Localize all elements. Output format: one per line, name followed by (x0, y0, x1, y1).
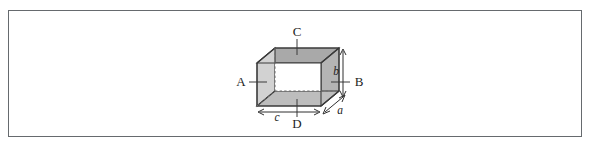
face-label-c: C (293, 24, 302, 39)
dimension-label-a: a (337, 104, 343, 116)
dimension-label-c: c (274, 111, 279, 123)
figure-panel: A B C D b c a (8, 10, 582, 137)
dimension-label-b: b (333, 65, 339, 77)
box-diagram: A B C D b c a (9, 11, 583, 138)
box-interior-opening (275, 63, 321, 91)
dimension-arrowhead-a-upper (339, 95, 345, 102)
face-label-a: A (236, 74, 246, 89)
face-label-d: D (292, 116, 301, 131)
face-label-b: B (355, 74, 364, 89)
